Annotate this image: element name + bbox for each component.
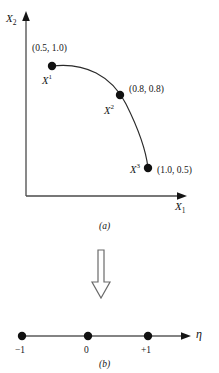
eta-axis-label: η bbox=[196, 328, 202, 340]
panel-a-canvas bbox=[0, 0, 219, 240]
eta-node-minus-one-marker bbox=[18, 332, 26, 340]
x-axis-arrowhead-icon bbox=[177, 192, 187, 200]
eta-axis-arrowhead-icon bbox=[181, 332, 191, 340]
element-curve bbox=[52, 65, 148, 168]
panel-b-caption: (b) bbox=[99, 360, 110, 370]
node-x3-coordinate-label: (1.0, 0.5) bbox=[157, 166, 192, 176]
y-axis-label: X2 bbox=[6, 13, 16, 27]
panel-a-caption: (a) bbox=[99, 222, 110, 232]
node-x1-marker bbox=[48, 62, 56, 70]
node-x3-marker bbox=[144, 164, 152, 172]
eta-tick-label-zero: 0 bbox=[84, 346, 89, 356]
node-x1-name-label: X1 bbox=[42, 74, 52, 86]
eta-tick-label-minus-one: −1 bbox=[15, 346, 25, 356]
eta-node-plus-one-marker bbox=[144, 332, 152, 340]
panel-a-physical-element: X2 X1 (0.5, 1.0) X1 (0.8, 0.8) X2 X3 (1.… bbox=[0, 0, 219, 240]
figure-root: X2 X1 (0.5, 1.0) X1 (0.8, 0.8) X2 X3 (1.… bbox=[0, 0, 219, 373]
node-x2-marker bbox=[116, 91, 124, 99]
eta-tick-label-plus-one: +1 bbox=[141, 346, 151, 356]
node-x1-coordinate-label: (0.5, 1.0) bbox=[32, 44, 67, 54]
node-x3-name-label: X3 bbox=[130, 163, 140, 175]
panel-b-natural-coordinate: η −1 0 +1 (b) bbox=[0, 240, 219, 373]
mapping-down-arrow-icon bbox=[92, 250, 110, 298]
y-axis-arrowhead-icon bbox=[22, 11, 30, 21]
node-x2-coordinate-label: (0.8, 0.8) bbox=[129, 85, 164, 95]
panel-b-canvas bbox=[0, 240, 219, 373]
x-axis-label: X1 bbox=[175, 201, 185, 215]
eta-node-zero-marker bbox=[84, 332, 92, 340]
node-x2-name-label: X2 bbox=[104, 104, 114, 116]
